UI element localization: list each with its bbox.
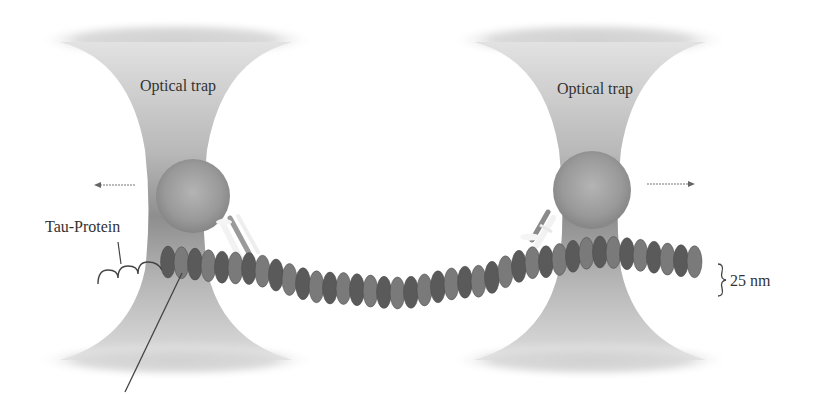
tubulin-segment: [377, 276, 392, 308]
bead-right: [553, 151, 631, 229]
tubulin-segment: [485, 261, 500, 293]
tubulin-segment: [674, 245, 689, 277]
tubulin-segment: [606, 236, 621, 268]
arrow-left-icon: [94, 182, 135, 188]
tubulin-segment: [431, 271, 446, 303]
trap-bottom-rim: [36, 344, 316, 376]
tubulin-segment: [620, 238, 635, 270]
tubulin-segment: [525, 247, 540, 279]
tubulin-segment: [242, 253, 257, 285]
tubulin-segment: [323, 272, 338, 304]
tubulin-segment: [539, 246, 554, 278]
tubulin-segment: [188, 248, 203, 280]
tubulin-segment: [404, 276, 419, 308]
trap-label-right: Optical trap: [557, 80, 633, 98]
tubulin-segment: [255, 255, 270, 287]
tubulin-segment: [228, 252, 243, 284]
linker-right: [520, 212, 553, 245]
optical-trap-left: Optical trap: [36, 23, 316, 376]
tubulin-segment: [390, 277, 405, 309]
tubulin-segment: [309, 271, 324, 303]
tubulin-segment: [201, 250, 216, 282]
tubulin-segment: [296, 268, 311, 300]
tubulin-segment: [566, 240, 581, 272]
tubulin-segment: [269, 259, 284, 291]
tubulin-segment: [593, 236, 608, 268]
tubulin-segment: [417, 274, 432, 306]
trap-label-left: Optical trap: [140, 77, 216, 95]
tubulin-segment: [512, 250, 527, 282]
tubulin-segment: [552, 244, 567, 276]
diameter-label: 25 nm: [730, 272, 771, 289]
tubulin-segment: [633, 239, 648, 271]
trap-bottom-rim: [450, 344, 730, 376]
tubulin-segment: [444, 268, 459, 300]
tubulin-segment: [498, 256, 513, 288]
tubulin-segment: [336, 272, 351, 304]
tubulin-segment: [350, 274, 365, 306]
tubulin-segment: [647, 241, 662, 273]
diameter-annotation: 25 nm: [718, 264, 771, 296]
tubulin-segment: [660, 243, 675, 275]
arrow-right-icon: [647, 181, 695, 187]
tubulin-segment: [363, 275, 378, 307]
optical-trap-right: Optical trap: [450, 23, 730, 376]
tubulin-segment: [282, 263, 297, 295]
tubulin-segment: [687, 246, 702, 278]
tubulin-segment: [215, 251, 230, 283]
optical-trap-diagram: Optical trap Optical trap: [0, 0, 819, 410]
tubulin-segment: [458, 266, 473, 298]
tubulin-segment: [161, 246, 176, 278]
tau-protein-label: Tau-Protein: [45, 218, 120, 235]
brace-icon: [718, 264, 726, 296]
tubulin-segment: [579, 237, 594, 269]
tubulin-segment: [471, 265, 486, 297]
